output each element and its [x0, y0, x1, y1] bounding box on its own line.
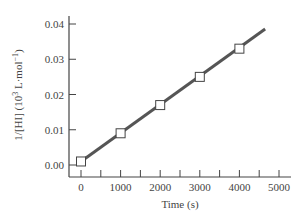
x-tick-label: 4000 [228, 181, 251, 193]
y-tick-label: 0.03 [45, 53, 65, 65]
y-axis-title: 1/[HI] (103 L·mol−1) [11, 49, 26, 141]
y-tick-label: 0.00 [45, 159, 65, 171]
x-axis-title: Time (s) [161, 198, 199, 211]
data-point-marker [235, 44, 244, 53]
data-point-marker [195, 72, 204, 81]
x-tick-label: 3000 [189, 181, 212, 193]
y-tick-label: 0.01 [45, 124, 64, 136]
chart: 0.000.010.020.030.0401000200030004000500… [0, 0, 305, 216]
data-point-marker [77, 157, 86, 166]
x-tick-label: 1000 [110, 181, 133, 193]
x-tick-label: 2000 [149, 181, 172, 193]
x-tick-label: 0 [78, 181, 84, 193]
y-tick-label: 0.04 [45, 18, 65, 30]
data-point-marker [116, 129, 125, 138]
y-tick-label: 0.02 [45, 89, 64, 101]
x-tick-label: 5000 [268, 181, 291, 193]
data-point-marker [156, 101, 165, 110]
axes [69, 16, 291, 177]
ticks: 0.000.010.020.030.0401000200030004000500… [45, 18, 291, 193]
